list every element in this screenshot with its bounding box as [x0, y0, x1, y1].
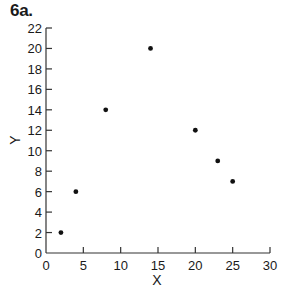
x-tick-label: 20: [188, 258, 202, 273]
x-tick-label: 15: [151, 258, 165, 273]
data-point: [73, 189, 78, 194]
data-point: [215, 159, 220, 164]
y-tick-label: 18: [28, 62, 42, 77]
y-tick-label: 4: [35, 205, 42, 220]
y-axis-label: Y: [7, 135, 23, 145]
x-axis-label: X: [152, 272, 162, 288]
x-tick-label: 30: [263, 258, 277, 273]
data-point: [230, 179, 235, 184]
data-point: [148, 46, 153, 51]
y-tick-label: 16: [28, 82, 42, 97]
data-points: [59, 46, 236, 235]
y-tick-label: 6: [35, 185, 42, 200]
x-tick-label: 0: [42, 258, 49, 273]
y-tick-label: 22: [28, 21, 42, 36]
data-point: [193, 128, 198, 133]
scatter-plot: 0510152025300246810121416182022 X Y: [0, 0, 288, 295]
x-tick-label: 10: [113, 258, 127, 273]
y-tick-label: 14: [28, 103, 42, 118]
axes: 0510152025300246810121416182022: [28, 21, 278, 273]
y-tick-label: 12: [28, 123, 42, 138]
y-tick-label: 10: [28, 144, 42, 159]
y-tick-label: 8: [35, 164, 42, 179]
y-tick-label: 20: [28, 41, 42, 56]
data-point: [59, 230, 64, 235]
y-tick-label: 0: [35, 246, 42, 261]
x-tick-label: 25: [225, 258, 239, 273]
x-tick-label: 5: [80, 258, 87, 273]
data-point: [103, 107, 108, 112]
y-tick-label: 2: [35, 226, 42, 241]
